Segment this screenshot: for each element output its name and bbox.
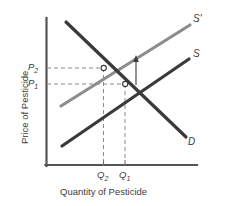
- quantity-tick-q2-sub: 2: [104, 175, 108, 182]
- quantity-tick-q1: Q1: [119, 170, 130, 182]
- curve-label-demand: D: [188, 137, 195, 147]
- quantity-tick-q1-sub: 1: [126, 175, 130, 182]
- curve-label-supply-shifted: S': [193, 14, 202, 24]
- supply-demand-figure: S' S D P2 P1 Q2 Q1 Price of Pesticide Qu…: [0, 0, 230, 206]
- guide-lines: [47, 68, 125, 160]
- quantity-tick-q2: Q2: [97, 170, 108, 182]
- chart-canvas: [0, 0, 230, 206]
- x-axis-title: Quantity of Pesticide: [60, 187, 147, 197]
- equilibrium-point-2: [101, 65, 106, 70]
- y-axis-title: Price of Pesticide: [20, 71, 30, 144]
- price-tick-p1-sub: 1: [34, 83, 38, 90]
- price-tick-p2-sub: 2: [34, 67, 38, 74]
- equilibrium-point-1: [123, 81, 128, 86]
- curve-supply: [62, 59, 189, 146]
- axis-lines: [45, 18, 197, 166]
- curve-label-supply: S: [193, 49, 200, 59]
